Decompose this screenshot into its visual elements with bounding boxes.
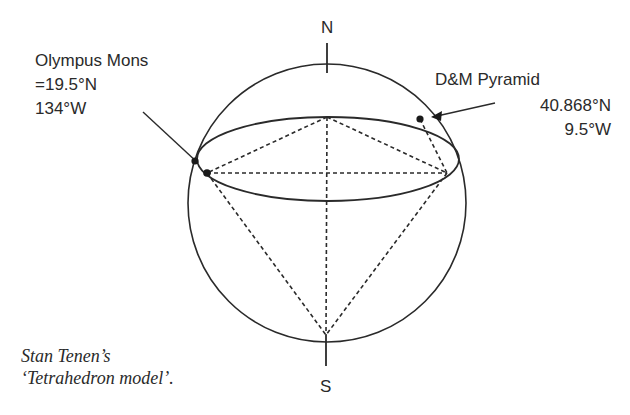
- olympus-mons-marker: [191, 157, 198, 164]
- north-label: N: [321, 17, 333, 38]
- dm-pyramid-name: D&M Pyramid: [435, 69, 540, 90]
- dm-pyramid-longitude: 9.5°W: [495, 119, 611, 140]
- caption-line-1: Stan Tenen’s: [21, 345, 174, 367]
- south-label: S: [320, 376, 331, 397]
- olympus-mons-vertex-dot: [203, 169, 211, 177]
- dm-pyramid-pointer: [437, 103, 495, 116]
- dm-pyramid-marker: [416, 115, 423, 122]
- olympus-mons-longitude: 134°W: [35, 98, 148, 119]
- caption-line-2: ‘Tetrahedron model’.: [21, 367, 174, 389]
- olympus-mons-label: Olympus Mons =19.5°N 134°W: [35, 50, 148, 119]
- dm-pyramid-coords: 40.868°N 9.5°W: [495, 95, 611, 140]
- figure-caption: Stan Tenen’s ‘Tetrahedron model’.: [21, 345, 174, 389]
- olympus-mons-pointer: [143, 112, 198, 163]
- olympus-mons-latitude: =19.5°N: [35, 74, 148, 95]
- dm-pyramid-latitude: 40.868°N: [495, 95, 611, 116]
- olympus-mons-name: Olympus Mons: [35, 50, 148, 71]
- diagram-canvas: N S Olympus Mons =19.5°N 134°W D&M Pyram…: [0, 0, 630, 415]
- tetrahedron-edges: [207, 117, 447, 335]
- dm-pyramid-label: D&M Pyramid: [435, 69, 540, 90]
